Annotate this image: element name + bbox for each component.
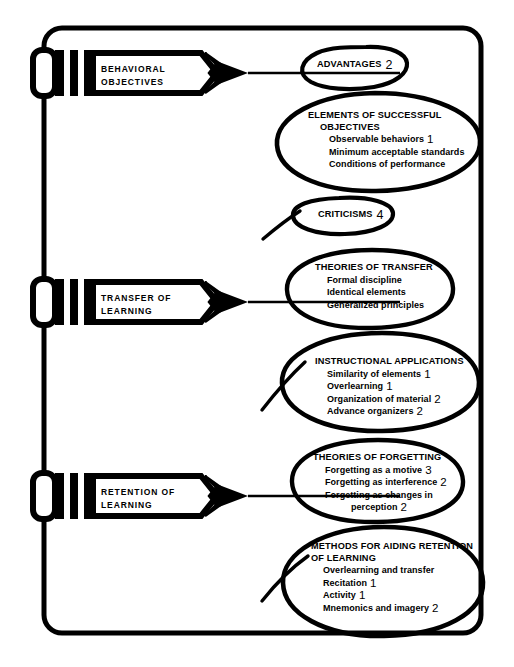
item-text: Forgetting as a motive — [325, 465, 422, 475]
bubble-elements-of-successful-objectives: ELEMENTS OF SUCCESSFUL OBJECTIVES Observ… — [308, 110, 467, 171]
bubble-methods-subtitle: OF LEARNING — [311, 553, 473, 565]
item-count — [445, 158, 448, 170]
item-text: Forgetting as changes in — [325, 490, 433, 500]
bubble-theories-forgetting-item-0: Forgetting as a motive3 — [313, 464, 447, 477]
diagram-canvas: BEHAVIORAL OBJECTIVES TRANSFER OF LEARNI… — [0, 0, 514, 667]
item-text: Observable behaviors — [329, 134, 424, 144]
item-text: Recitation — [323, 578, 367, 588]
bubble-theories-forgetting-item-1: Forgetting as interference2 — [313, 476, 447, 489]
bubble-methods-item-0: Overlearning and transfer — [311, 564, 473, 577]
item-text: Minimum acceptable standards — [329, 147, 464, 157]
bubble-theories-of-transfer: THEORIES OF TRANSFER Formal discipline I… — [315, 262, 433, 311]
item-text: Overlearning — [327, 381, 383, 391]
item-text: Similarity of elements — [327, 369, 421, 379]
item-count — [434, 564, 437, 576]
bubble-elements-subtitle: OBJECTIVES — [308, 122, 467, 134]
bubble-elements-item-2: Conditions of performance — [308, 158, 467, 171]
bubble-theories-transfer-item-2: Generalized principles — [315, 299, 433, 312]
item-count: 2 — [429, 602, 438, 614]
bubble-methods-item-2: Activity1 — [311, 589, 473, 602]
bubble-theories-forgetting-title: THEORIES OF FORGETTING — [313, 452, 447, 464]
bubble-methods-title: METHODS FOR AIDING RETENTION — [311, 541, 473, 553]
bubble-theories-forgetting-item-3: perception2 — [313, 501, 447, 514]
bubble-advantages-count: 2 — [381, 58, 392, 72]
bubble-elements-item-1: Minimum acceptable standards — [308, 146, 467, 159]
bubble-theories-of-forgetting: THEORIES OF FORGETTING Forgetting as a m… — [313, 452, 447, 514]
bubble-advantages-title: ADVANTAGES — [317, 59, 381, 69]
bubble-methods-item-1: Recitation1 — [311, 577, 473, 590]
bubble-advantages: ADVANTAGES2 — [317, 58, 393, 71]
item-count: 1 — [421, 368, 430, 380]
item-text: Generalized principles — [327, 300, 424, 310]
item-text: Advance organizers — [327, 406, 413, 416]
item-count: 2 — [437, 476, 446, 488]
item-count — [424, 299, 427, 311]
item-text: Formal discipline — [327, 275, 402, 285]
item-text: Activity — [323, 590, 356, 600]
bubble-theories-transfer-item-0: Formal discipline — [315, 274, 433, 287]
criticisms-tail-stroke — [263, 211, 300, 239]
item-count — [464, 146, 467, 158]
bubble-criticisms-title: CRITICISMS — [318, 209, 373, 219]
item-count: 2 — [398, 501, 407, 513]
item-count: 1 — [367, 577, 376, 589]
item-count: 1 — [424, 133, 433, 145]
item-text: perception — [351, 502, 398, 512]
pencil-label-transfer-of-learning: TRANSFER OF LEARNING — [101, 292, 171, 317]
bubble-methods-item-3: Mnemonics and imagery2 — [311, 602, 473, 615]
item-count — [433, 489, 436, 501]
item-count: 1 — [356, 589, 365, 601]
bubble-theories-transfer-title: THEORIES OF TRANSFER — [315, 262, 433, 274]
item-text: Conditions of performance — [329, 159, 445, 169]
bubble-elements-item-0: Observable behaviors1 — [308, 133, 467, 146]
bubble-instructional-item-2: Organization of material2 — [315, 393, 464, 406]
item-text: Mnemonics and imagery — [323, 603, 429, 613]
item-text: Overlearning and transfer — [323, 565, 434, 575]
bubble-instructional-item-3: Advance organizers2 — [315, 405, 464, 418]
item-count: 2 — [413, 405, 422, 417]
bubble-criticisms: CRITICISMS4 — [318, 208, 384, 221]
item-text: Identical elements — [327, 287, 406, 297]
bubble-theories-forgetting-item-2: Forgetting as changes in — [313, 489, 447, 502]
bubble-instructional-title: INSTRUCTIONAL APPLICATIONS — [315, 356, 464, 368]
item-count — [406, 286, 409, 298]
pencil-label-retention-of-learning: RETENTION OF LEARNING — [101, 486, 175, 511]
item-count: 2 — [431, 393, 440, 405]
bubble-instructional-item-0: Similarity of elements1 — [315, 368, 464, 381]
item-count: 1 — [383, 380, 392, 392]
bubble-instructional-item-1: Overlearning1 — [315, 380, 464, 393]
item-count — [402, 274, 405, 286]
bubble-methods-for-aiding-retention: METHODS FOR AIDING RETENTION OF LEARNING… — [311, 541, 473, 615]
bubble-elements-title: ELEMENTS OF SUCCESSFUL — [308, 110, 467, 122]
item-count: 3 — [422, 464, 431, 476]
bubble-instructional-applications: INSTRUCTIONAL APPLICATIONS Similarity of… — [315, 356, 464, 418]
bubble-criticisms-count: 4 — [373, 208, 384, 222]
item-text: Organization of material — [327, 394, 431, 404]
pencil-label-behavioral-objectives: BEHAVIORAL OBJECTIVES — [101, 63, 166, 88]
bubble-theories-transfer-item-1: Identical elements — [315, 286, 433, 299]
item-text: Forgetting as interference — [325, 477, 437, 487]
